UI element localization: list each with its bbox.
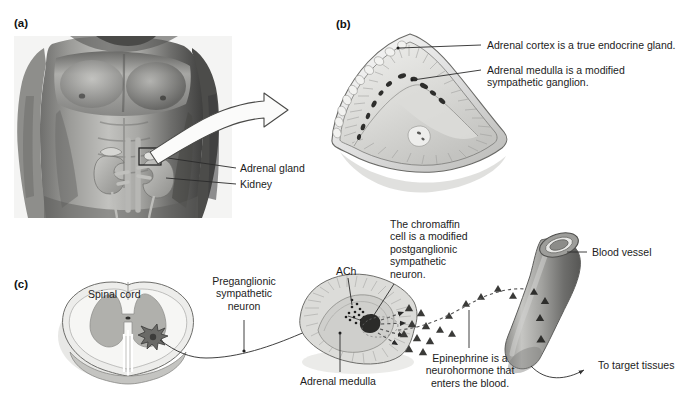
label-adrenal-medulla-c: Adrenal medulla <box>300 375 376 387</box>
panel-letter-c: (c) <box>14 278 28 290</box>
label-adrenal-gland-a: Adrenal gland <box>240 162 305 174</box>
label-spinal-cord: Spinal cord <box>88 288 141 300</box>
label-adrenal-cortex: Adrenal cortex is a true endocrine gland… <box>487 39 676 51</box>
label-kidney: Kidney <box>240 178 272 190</box>
label-adrenal-medulla-b: Adrenal medulla is a modified sympatheti… <box>487 64 625 89</box>
label-blood-vessel: Blood vessel <box>592 246 652 258</box>
figure-canvas <box>0 0 697 409</box>
label-to-target-tissues: To target tissues <box>598 359 674 371</box>
panel-letter-b: (b) <box>336 18 351 30</box>
label-chromaffin-cell: The chromaffin cell is a modified postga… <box>390 218 468 280</box>
epinephrine-molecules <box>400 285 517 355</box>
chromaffin-cell <box>360 314 381 333</box>
label-preganglionic-neuron: Preganglionic sympathetic neuron <box>193 275 295 312</box>
adrenal-gland-c <box>300 274 417 374</box>
label-epinephrine: Epinephrine is a neurohormone that enter… <box>414 352 526 389</box>
label-ach: ACh <box>336 265 356 277</box>
adrenal-gland-section <box>332 34 507 193</box>
